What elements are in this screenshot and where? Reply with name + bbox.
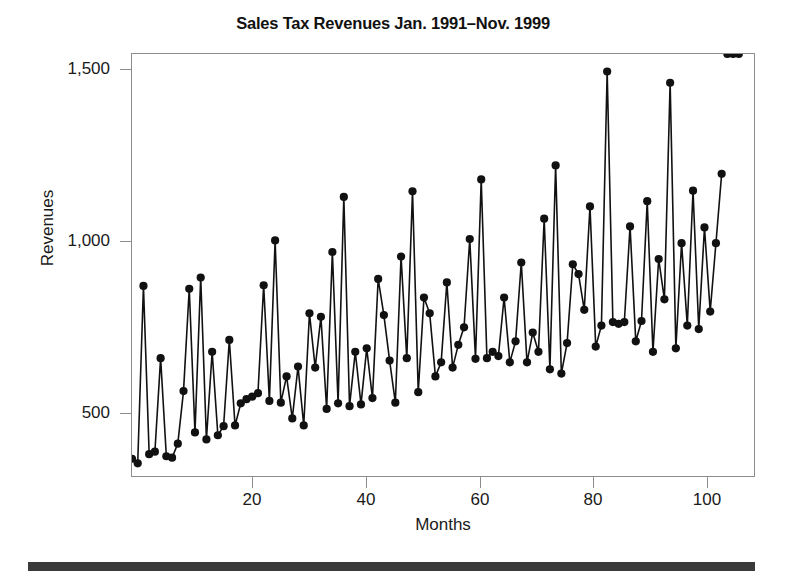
data-point [368,394,376,402]
series-plot [132,54,756,478]
x-tick-label-80: 80 [558,490,628,510]
data-point [414,388,422,396]
data-point [448,364,456,372]
y-axis-title: Revenues [38,148,58,308]
data-point [580,306,588,314]
data-point [277,399,285,407]
data-point [689,187,697,195]
x-tick-label-20: 20 [217,490,287,510]
data-point [735,54,743,58]
data-point [626,222,634,230]
y-tick-mark-1000 [120,241,131,242]
data-point [603,67,611,75]
data-point [231,421,239,429]
data-point [460,323,468,331]
y-tick-mark-1500 [120,69,131,70]
data-point [197,273,205,281]
y-tick-label-1500: 1,500 [20,59,110,79]
data-point [552,161,560,169]
data-point [363,344,371,352]
data-point [185,285,193,293]
data-point [426,309,434,317]
data-point [311,364,319,372]
data-point [540,215,548,223]
data-point [214,431,222,439]
data-point [391,399,399,407]
data-point [408,187,416,195]
y-tick-label-1000: 1,000 [20,231,110,251]
data-point [655,255,663,263]
x-tick-mark-100 [707,477,708,488]
data-point [397,252,405,260]
data-point [271,236,279,244]
data-point [592,343,600,351]
data-point [534,348,542,356]
data-point [700,223,708,231]
data-point [328,248,336,256]
data-point [260,281,268,289]
chart-title: Sales Tax Revenues Jan. 1991–Nov. 1999 [0,14,786,33]
data-point [323,405,331,413]
data-point [557,369,565,377]
data-point [718,170,726,178]
data-point [351,348,359,356]
data-point [677,239,685,247]
data-point [202,435,210,443]
data-point [511,337,519,345]
y-tick-mark-500 [120,413,131,414]
data-point [208,348,216,356]
data-point [254,389,262,397]
x-tick-label-40: 40 [331,490,401,510]
chart-figure: Sales Tax Revenues Jan. 1991–Nov. 1999 1… [0,0,786,577]
data-point [471,355,479,363]
y-tick-label-500: 500 [20,403,110,423]
data-point [134,459,142,467]
data-point [632,337,640,345]
data-point [643,197,651,205]
x-tick-label-60: 60 [445,490,515,510]
data-point [466,235,474,243]
x-tick-mark-60 [480,477,481,488]
data-point [563,339,571,347]
data-point [649,348,657,356]
data-point [529,328,537,336]
data-point [265,397,273,405]
data-point [483,354,491,362]
data-point [340,193,348,201]
data-point [179,387,187,395]
data-point [712,239,720,247]
data-point [506,358,514,366]
data-point [443,278,451,286]
data-point [420,293,428,301]
data-point [500,293,508,301]
data-point [357,400,365,408]
data-point [454,341,462,349]
data-point [282,372,290,380]
data-point [294,362,302,370]
bottom-divider-bar [28,562,755,571]
data-point [317,313,325,321]
data-point [672,344,680,352]
data-point [586,202,594,210]
data-point [706,307,714,315]
data-point [637,317,645,325]
data-point [574,270,582,278]
x-tick-mark-20 [252,477,253,488]
x-tick-label-100: 100 [672,490,742,510]
data-point [151,448,159,456]
data-point [494,352,502,360]
data-point [666,79,674,87]
data-point [683,321,691,329]
data-point [546,365,554,373]
data-point [139,282,147,290]
data-point [345,402,353,410]
x-tick-mark-40 [366,477,367,488]
data-point [386,357,394,365]
x-axis-title: Months [131,515,755,535]
data-point [305,309,313,317]
data-point [380,311,388,319]
data-point [437,358,445,366]
data-point [225,336,233,344]
revenue-markers [132,54,743,467]
data-point [569,260,577,268]
